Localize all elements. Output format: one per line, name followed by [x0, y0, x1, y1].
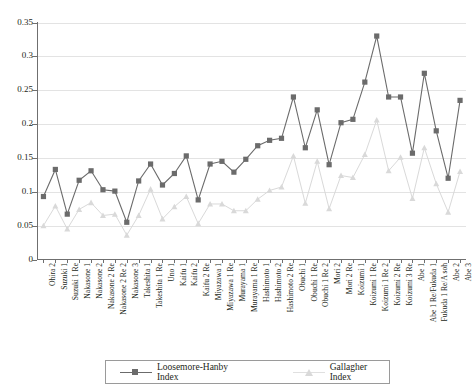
data-point [445, 209, 451, 215]
data-point [207, 161, 212, 166]
data-point [290, 153, 296, 159]
data-point [53, 167, 58, 172]
data-point [160, 182, 165, 187]
data-point [314, 158, 320, 164]
data-point [315, 107, 320, 112]
data-point [136, 212, 142, 218]
data-point [148, 161, 153, 166]
data-point [76, 206, 82, 212]
data-point [124, 220, 129, 225]
data-point [362, 79, 367, 84]
data-point [172, 171, 177, 176]
data-point [338, 173, 344, 179]
legend-marker-square-icon [120, 367, 151, 377]
data-point [88, 200, 94, 206]
data-point [374, 117, 380, 123]
data-point [279, 184, 285, 190]
data-point [303, 145, 308, 150]
data-point [433, 181, 439, 187]
chart-container: 00.050.10.150.20.250.30.35 Ohira 2Suzuki… [0, 0, 472, 388]
data-point [457, 168, 463, 174]
series-line [43, 120, 460, 235]
data-point [398, 154, 404, 160]
legend-item-loosemore-hanby: Loosemore-Hanby Index [120, 362, 249, 382]
data-point [124, 232, 130, 238]
data-point [65, 212, 70, 217]
data-point [386, 94, 391, 99]
data-point [243, 157, 248, 162]
data-point [350, 117, 355, 122]
data-point [77, 178, 82, 183]
data-point [100, 187, 105, 192]
data-point [291, 94, 296, 99]
series-gallagher [40, 117, 463, 238]
data-point [88, 168, 93, 173]
data-point [302, 200, 308, 206]
data-point [267, 138, 272, 143]
legend-marker-triangle-icon [293, 367, 324, 377]
data-point [326, 206, 332, 212]
data-point [64, 226, 70, 232]
data-point [112, 189, 117, 194]
data-point [183, 194, 189, 200]
data-point [446, 176, 451, 181]
data-point [136, 178, 141, 183]
data-point [327, 162, 332, 167]
data-point [148, 186, 154, 192]
data-point [338, 120, 343, 125]
series-loosemore-hanby [41, 33, 463, 224]
data-point [374, 33, 379, 38]
data-point [279, 136, 284, 141]
data-point [219, 159, 224, 164]
data-point [255, 143, 260, 148]
data-point [195, 221, 201, 227]
data-point [184, 153, 189, 158]
data-point [362, 152, 368, 158]
data-point [410, 151, 415, 156]
legend-item-gallagher: Gallagher Index [293, 362, 389, 382]
legend-label-loosemore-hanby: Loosemore-Hanby Index [157, 362, 249, 382]
chart-legend: Loosemore-Hanby Index Gallagher Index [105, 360, 390, 384]
data-point [434, 128, 439, 133]
data-point [409, 196, 415, 202]
series-plot [0, 0, 472, 388]
data-point [421, 145, 427, 151]
series-line [43, 36, 460, 222]
data-point [196, 197, 201, 202]
data-point [40, 223, 46, 229]
legend-label-gallagher: Gallagher Index [330, 362, 389, 382]
data-point [398, 94, 403, 99]
data-point [422, 71, 427, 76]
data-point [231, 170, 236, 175]
data-point [41, 194, 46, 199]
data-point [52, 203, 58, 209]
data-point [457, 98, 462, 103]
